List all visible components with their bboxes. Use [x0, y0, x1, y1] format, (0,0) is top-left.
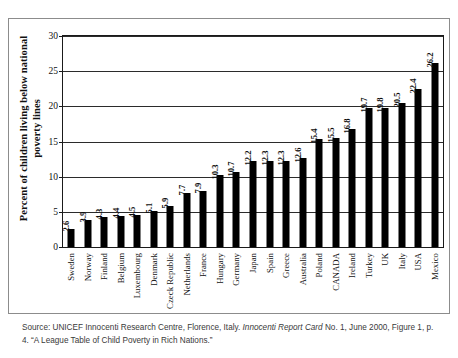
bar-group[interactable]: 12.3Spain — [261, 36, 278, 247]
bar-value-label: 12.3 — [260, 150, 270, 165]
x-axis-label: USA — [413, 253, 423, 271]
bar-value-label: 7.9 — [193, 183, 203, 194]
y-tick-label: 20 — [49, 101, 59, 111]
bar-group[interactable]: 15.4Poland — [311, 36, 328, 247]
bar-value-label: 4.5 — [127, 207, 137, 218]
y-tick-label: 15 — [49, 137, 59, 147]
x-axis-label: Sweden — [66, 253, 76, 281]
x-axis-label: Turkey — [364, 253, 374, 278]
x-axis-label: Japan — [248, 253, 258, 273]
y-axis-title: Percent of children living below nationa… — [17, 23, 44, 233]
bar-group[interactable]: 10.3Hungary — [212, 36, 229, 247]
bar-value-label: 4.4 — [111, 208, 121, 219]
x-axis-label: Germany — [231, 253, 241, 286]
bar[interactable] — [84, 220, 91, 247]
x-axis-label: Poland — [314, 253, 324, 277]
caption-line1-post: No. 1, June 2000, Figure 1, — [323, 323, 425, 332]
bar-value-label: 20.5 — [392, 92, 402, 107]
bar-group[interactable]: 19.7Turkey — [360, 36, 377, 247]
bar-value-label: 12.2 — [243, 151, 253, 166]
bar[interactable] — [316, 139, 323, 247]
x-axis-label: Luxembourg — [132, 253, 142, 298]
bar-value-label: 5.1 — [144, 203, 154, 214]
y-tick-label: 25 — [49, 66, 59, 76]
y-tick-label: 5 — [53, 207, 58, 217]
bar[interactable] — [200, 191, 207, 247]
bar-value-label: 4.3 — [94, 208, 104, 219]
bar-value-label: 7.7 — [177, 184, 187, 195]
x-axis-label: Belgium — [116, 253, 126, 283]
bar-series: 2.6Sweden3.9Norway4.3Finland4.4Belgium4.… — [63, 36, 443, 247]
bar-group[interactable]: 4.5Luxembourg — [129, 36, 146, 247]
x-axis-label: Czeck Republic — [165, 253, 175, 309]
bar[interactable] — [134, 215, 141, 247]
x-axis-label: Finland — [99, 253, 109, 280]
x-axis-label: Netherlands — [182, 253, 192, 296]
bar-group[interactable]: 19.8UK — [377, 36, 394, 247]
bar-value-label: 12.6 — [293, 148, 303, 163]
y-tick-label: 0 — [53, 242, 58, 252]
x-axis-label: CANADA — [331, 253, 341, 291]
bar-group[interactable]: 12.2Japan — [245, 36, 262, 247]
bar-group[interactable]: 5.9Czeck Republic — [162, 36, 179, 247]
y-tick-mark — [59, 247, 63, 248]
bar-group[interactable]: 16.8Ireland — [344, 36, 361, 247]
bar[interactable] — [233, 172, 240, 247]
plot-area: 051015202530 2.6Sweden3.9Norway4.3Finlan… — [62, 35, 444, 248]
bar-value-label: 15.4 — [309, 128, 319, 143]
bar[interactable] — [117, 216, 124, 247]
y-tick-label: 30 — [49, 31, 59, 41]
x-axis-label: Greece — [281, 253, 291, 278]
bar[interactable] — [398, 103, 405, 247]
bar[interactable] — [365, 108, 372, 247]
caption-line1-italic: Innocenti Report Card — [243, 323, 323, 332]
bar-group[interactable]: 20.5Italy — [393, 36, 410, 247]
x-axis-label: Italy — [397, 253, 407, 269]
bar[interactable] — [349, 129, 356, 247]
bar[interactable] — [68, 229, 75, 247]
bar-value-label: 10.7 — [226, 161, 236, 176]
source-caption: Source: UNICEF Innocenti Research Centre… — [22, 322, 440, 347]
bar-group[interactable]: 22.4USA — [410, 36, 427, 247]
bar[interactable] — [299, 158, 306, 247]
bar[interactable] — [431, 63, 438, 247]
x-axis-label: UK — [380, 253, 390, 266]
y-tick-label: 10 — [49, 172, 59, 182]
bar[interactable] — [266, 161, 273, 248]
bar-group[interactable]: 12.3Greece — [278, 36, 295, 247]
bar-group[interactable]: 7.9France — [195, 36, 212, 247]
bar-value-label: 22.4 — [408, 79, 418, 94]
bar[interactable] — [249, 161, 256, 247]
bar[interactable] — [382, 108, 389, 247]
x-axis-label: Hungary — [215, 253, 225, 284]
bar[interactable] — [216, 175, 223, 247]
bar[interactable] — [415, 89, 422, 247]
figure-frame: Percent of children living below nationa… — [8, 18, 450, 314]
bar[interactable] — [332, 138, 339, 247]
bar-value-label: 19.7 — [359, 98, 369, 113]
bar[interactable] — [283, 161, 290, 248]
bar-group[interactable]: 7.7Netherlands — [179, 36, 196, 247]
x-axis-label: Ireland — [347, 253, 357, 278]
bar-value-label: 12.3 — [276, 150, 286, 165]
bar-group[interactable]: 5.1Denmark — [146, 36, 163, 247]
x-axis-label: Australia — [298, 253, 308, 285]
bar-value-label: 10.3 — [210, 164, 220, 179]
caption-line1-pre: Source: UNICEF Innocenti Research Centre… — [22, 323, 243, 332]
bar[interactable] — [167, 206, 174, 247]
bar[interactable] — [101, 217, 108, 247]
bar-value-label: 2.6 — [61, 220, 71, 231]
bar[interactable] — [183, 193, 190, 247]
bar-group[interactable]: 10.7Germany — [228, 36, 245, 247]
x-axis-label: Spain — [265, 253, 275, 273]
bar-value-label: 26.2 — [425, 52, 435, 67]
bar-value-label: 3.9 — [78, 211, 88, 222]
x-axis-label: Mexico — [430, 253, 440, 280]
bar-value-label: 15.5 — [326, 127, 336, 142]
x-axis-label: Denmark — [149, 253, 159, 286]
x-axis-label: Norway — [83, 253, 93, 281]
bar[interactable] — [150, 211, 157, 247]
bar-value-label: 16.8 — [342, 118, 352, 133]
bar-group[interactable]: 26.2Mexico — [426, 36, 443, 247]
bar-group[interactable]: 15.5CANADA — [327, 36, 344, 247]
